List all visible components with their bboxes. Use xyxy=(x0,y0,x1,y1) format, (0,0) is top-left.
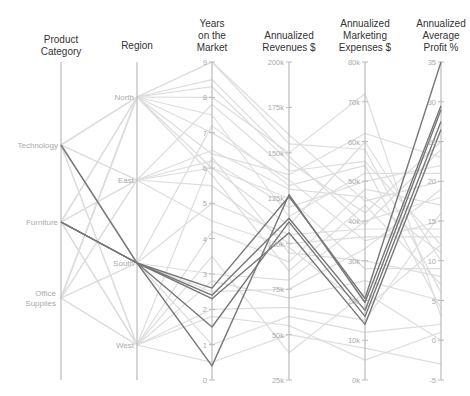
tick-label: 200k xyxy=(268,58,285,67)
tick-label: 10 xyxy=(428,257,436,266)
tick-label: 3 xyxy=(203,270,207,279)
category-label: Supplies xyxy=(25,299,56,308)
tick-label: 6 xyxy=(203,164,207,173)
category-label: North xyxy=(114,93,134,102)
category-label: East xyxy=(118,176,135,185)
tick-label: 150k xyxy=(268,149,285,158)
tick-label: 7 xyxy=(203,129,207,138)
tick-label: 4 xyxy=(203,235,207,244)
tick-label: 2 xyxy=(203,305,207,314)
background-series-line xyxy=(61,97,441,175)
tick-label: 1 xyxy=(203,341,207,350)
category-label: Technology xyxy=(18,141,58,150)
background-series-line xyxy=(61,126,441,309)
tick-label: 25k xyxy=(272,376,284,385)
tick-label: 0 xyxy=(203,376,207,385)
background-series-line xyxy=(61,256,441,352)
background-series-lines xyxy=(61,62,441,364)
tick-label: 15 xyxy=(428,217,436,226)
tick-label: 60k xyxy=(348,138,360,147)
axis-tick-labels: TechnologyFurnitureOfficeSuppliesNorthEa… xyxy=(18,58,436,385)
tick-label: 80k xyxy=(348,58,360,67)
category-label: South xyxy=(113,259,134,268)
tick-label: 8 xyxy=(203,93,207,102)
category-label: Furniture xyxy=(26,218,59,227)
category-label: Office xyxy=(35,289,56,298)
background-series-line xyxy=(61,203,441,298)
category-label: West xyxy=(116,341,135,350)
highlighted-series-lines xyxy=(61,62,441,366)
tick-label: 125k xyxy=(268,194,285,203)
tick-label: 40k xyxy=(348,217,360,226)
tick-label: 5 xyxy=(203,199,207,208)
axes xyxy=(61,62,444,380)
tick-label: 50k xyxy=(272,331,284,340)
tick-label: 0 xyxy=(432,336,436,345)
tick-label: 25 xyxy=(428,138,436,147)
tick-label: 5 xyxy=(432,297,436,306)
tick-label: 100k xyxy=(268,240,285,249)
tick-label: 30k xyxy=(348,257,360,266)
tick-label: 10k xyxy=(348,336,360,345)
tick-label: 50k xyxy=(348,177,360,186)
tick-label: 30 xyxy=(428,98,436,107)
tick-label: 20 xyxy=(428,177,436,186)
plot-area: TechnologyFurnitureOfficeSuppliesNorthEa… xyxy=(0,0,470,396)
tick-label: 35 xyxy=(428,58,436,67)
parallel-coordinates-chart: Product Category Region Years on the Mar… xyxy=(0,0,470,396)
tick-label: 175k xyxy=(268,103,285,112)
tick-label: 20k xyxy=(348,297,360,306)
tick-label: 9 xyxy=(203,58,207,67)
tick-label: -5 xyxy=(429,376,436,385)
tick-label: 0k xyxy=(352,376,360,385)
tick-label: 75k xyxy=(272,285,284,294)
tick-label: 70k xyxy=(348,98,360,107)
background-series-line xyxy=(61,180,441,308)
